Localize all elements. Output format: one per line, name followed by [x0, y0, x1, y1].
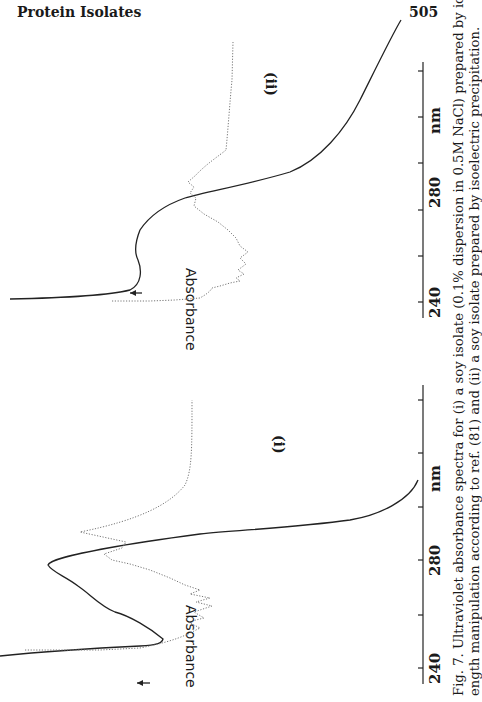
- tick-280-i: 280: [426, 545, 444, 576]
- panel-ii: 240 280 nm Absorbance (ii): [10, 20, 444, 351]
- caption-line-2: ength manipulation according to ref. (81…: [467, 27, 482, 696]
- figure-7: 240 280 nm Absorbance (ii) 240 280 nm Ab…: [0, 0, 482, 702]
- unit-nm-i: nm: [426, 465, 444, 492]
- curve-ii-solid: [10, 20, 401, 299]
- arrow-icon-i: [137, 680, 150, 686]
- panel-label-i: (i): [271, 435, 287, 454]
- curve-i-solid: [0, 480, 418, 656]
- curve-ii-dotted: [112, 42, 248, 301]
- tick-240-i: 240: [426, 653, 444, 684]
- tick-240-ii: 240: [426, 287, 444, 318]
- figure-caption: Fig. 7. Ultraviolet absorbance spectra f…: [451, 0, 482, 696]
- panel-i: 240 280 nm Absorbance (i): [0, 385, 444, 688]
- y-axis-label-ii: Absorbance: [183, 268, 199, 351]
- y-axis-label-i: Absorbance: [183, 605, 199, 688]
- arrow-icon-ii: [130, 290, 142, 296]
- tick-280-ii: 280: [426, 177, 444, 208]
- unit-nm-ii: nm: [426, 107, 444, 134]
- panel-label-ii: (ii): [263, 72, 279, 96]
- caption-line-1: Fig. 7. Ultraviolet absorbance spectra f…: [451, 0, 466, 696]
